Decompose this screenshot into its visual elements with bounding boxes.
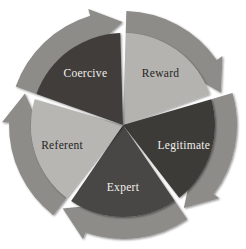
power-wheel-diagram: RewardLegitimateExpertReferentCoercive bbox=[0, 0, 246, 249]
label-referent: Referent bbox=[41, 139, 83, 151]
label-coercive: Coercive bbox=[63, 67, 107, 79]
label-reward: Reward bbox=[142, 67, 180, 79]
label-expert: Expert bbox=[107, 181, 140, 194]
power-wheel-svg: RewardLegitimateExpertReferentCoercive bbox=[0, 0, 246, 249]
label-legitimate: Legitimate bbox=[157, 139, 210, 152]
